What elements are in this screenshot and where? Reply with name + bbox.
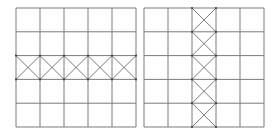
joint-dot	[215, 126, 217, 128]
joint-dot	[215, 7, 217, 9]
joint-dot	[135, 55, 137, 57]
joint-dot	[87, 78, 89, 80]
joint-dot	[215, 55, 217, 57]
joint-dot	[215, 102, 217, 104]
joint-dot	[191, 78, 193, 80]
grid-diagram	[0, 0, 275, 133]
right-grid-panel-column-bracing	[144, 7, 264, 128]
joint-dot	[215, 78, 217, 80]
joint-dot	[191, 7, 193, 9]
joint-dot	[191, 31, 193, 33]
left-grid-panel-row-bracing	[15, 8, 137, 127]
joint-dot	[191, 102, 193, 104]
joint-dot	[111, 78, 113, 80]
joint-dot	[63, 55, 65, 57]
joint-dot	[15, 55, 17, 57]
joint-dot	[39, 55, 41, 57]
joint-dot	[15, 78, 17, 80]
joint-dot	[135, 78, 137, 80]
joint-dot	[87, 55, 89, 57]
joint-dot	[39, 78, 41, 80]
joint-dot	[111, 55, 113, 57]
joint-dot	[215, 31, 217, 33]
joint-dot	[191, 55, 193, 57]
joint-dot	[63, 78, 65, 80]
joint-dot	[191, 126, 193, 128]
